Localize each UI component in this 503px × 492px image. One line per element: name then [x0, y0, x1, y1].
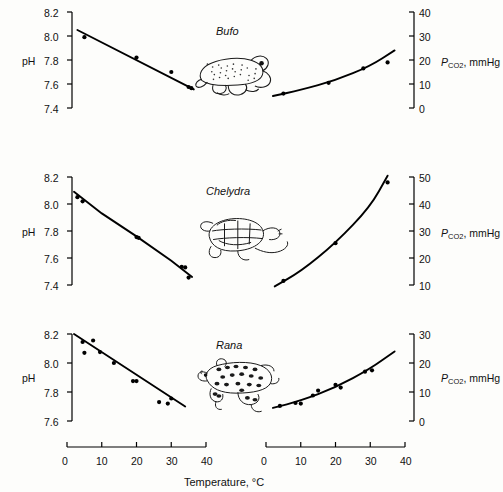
species-label-chelydra: Chelydra [206, 185, 250, 197]
pco2-axis-label-sub: CO [448, 61, 459, 70]
x-tick-label: 20 [131, 455, 143, 467]
species-label-bufo: Bufo [216, 25, 239, 37]
pco2-axis-label-unit: , mmHg [463, 56, 500, 68]
ph-data-point [112, 361, 116, 365]
ph-data-point [91, 338, 95, 342]
ph-tick-label: 8.2 [44, 329, 59, 341]
pco2-data-point [333, 241, 337, 245]
pco2-data-point [363, 370, 367, 374]
pco2-tick-label: 10 [419, 387, 431, 399]
figure-root: 8.2 8.0 7.8 7.6 7.4 pH 40 30 20 10 0 PCO… [0, 0, 503, 492]
ph-tick-label: 7.8 [44, 387, 59, 399]
ph-tick-label: 8.2 [44, 172, 59, 184]
ph-tick-label: 7.6 [44, 79, 59, 91]
pco2-axis-label-sub: CO [448, 232, 459, 241]
pco2-axis-label-p: P [441, 56, 448, 68]
turtle-illustration [201, 219, 288, 260]
pco2-tick-label: 0 [419, 416, 425, 428]
ph-data-point [134, 379, 138, 383]
ph-tick-label: 7.8 [44, 226, 59, 238]
pco2-tick-label: 50 [419, 172, 431, 184]
ph-axis-label: pH [22, 226, 35, 238]
pco2-fit-curve [273, 50, 395, 96]
ph-data-point [98, 350, 102, 354]
pco2-tick-label: 10 [419, 79, 431, 91]
ph-tick-label: 8.2 [44, 7, 59, 19]
ph-tick-label: 7.6 [44, 416, 59, 428]
ph-data-point [189, 86, 193, 90]
pco2-tick-label: 0 [419, 103, 425, 115]
pco2-data-point [281, 279, 285, 283]
pco2-data-point [370, 368, 374, 372]
pco2-tick-label: 10 [419, 280, 431, 292]
pco2-data-point [361, 66, 365, 70]
ph-tick-label: 7.6 [44, 253, 59, 265]
ph-axis-label: pH [22, 55, 35, 67]
ph-data-point [82, 351, 86, 355]
ph-tick-label: 8.0 [44, 31, 59, 43]
pco2-axis-label-unit: , mmHg [463, 372, 500, 384]
ph-tick-label: 8.0 [44, 358, 59, 370]
ph-data-point [81, 199, 85, 203]
x-tick-label: 10 [96, 455, 108, 467]
pco2-tick-label: 40 [419, 7, 431, 19]
ph-data-point [187, 276, 191, 280]
pco2-axis-label-unit: , mmHg [463, 227, 500, 239]
pco2-tick-label: 30 [419, 31, 431, 43]
pco2-data-point [299, 402, 303, 406]
ph-fit-curve [74, 192, 192, 277]
ph-data-point [134, 56, 138, 60]
toad-illustration [196, 56, 271, 95]
ph-data-point [81, 340, 85, 344]
ph-data-point [157, 400, 161, 404]
species-label-rana: Rana [216, 339, 242, 351]
x-tick-label: 40 [400, 455, 412, 467]
ph-data-point [183, 265, 187, 269]
pco2-axis-label: PCO2, mmHg [441, 56, 500, 70]
ph-axis-label: pH [22, 372, 35, 384]
x-tick-label: 0 [62, 455, 68, 467]
pco2-data-point [278, 404, 282, 408]
x-tick-label: 30 [365, 455, 377, 467]
pco2-axis-label: PCO2, mmHg [441, 227, 500, 241]
pco2-data-point [293, 401, 297, 405]
pco2-axis-label-p: P [441, 227, 448, 239]
ph-tick-label: 7.4 [44, 103, 59, 115]
pco2-fit-curve [275, 176, 388, 287]
ph-data-point [82, 35, 86, 39]
ph-tick-label: 7.8 [44, 55, 59, 67]
pco2-data-point [327, 81, 331, 85]
ph-data-point [180, 265, 184, 269]
pco2-tick-label: 30 [419, 329, 431, 341]
pco2-tick-label: 40 [419, 199, 431, 211]
ph-tick-label: 8.0 [44, 199, 59, 211]
pco2-data-point [281, 92, 285, 96]
pco2-data-point [339, 386, 343, 390]
pco2-tick-label: 30 [419, 226, 431, 238]
x-tick-label: 20 [330, 455, 342, 467]
ph-data-point [75, 195, 79, 199]
x-axis-title: Temperature, °C [184, 476, 264, 488]
x-tick-label: 30 [166, 455, 178, 467]
pco2-data-point [316, 389, 320, 393]
pco2-axis-label-sub: CO [448, 377, 459, 386]
pco2-tick-label: 20 [419, 253, 431, 265]
ph-data-point [166, 402, 170, 406]
x-tick-label: 40 [201, 455, 213, 467]
ph-fit-curve [74, 334, 185, 407]
pco2-axis-label-p: P [441, 372, 448, 384]
frog-illustration [198, 359, 279, 412]
pco2-data-point [311, 393, 315, 397]
pco2-tick-label: 20 [419, 55, 431, 67]
pco2-tick-label: 20 [419, 358, 431, 370]
ph-data-point [169, 396, 173, 400]
pco2-axis-label: PCO2, mmHg [441, 372, 500, 386]
pco2-data-point [333, 383, 337, 387]
ph-tick-label: 7.4 [44, 280, 59, 292]
pco2-data-point [386, 180, 390, 184]
plot-canvas [0, 0, 503, 492]
x-tick-label: 10 [295, 455, 307, 467]
pco2-fit-curve [273, 351, 395, 408]
x-tick-label: 0 [261, 455, 267, 467]
pco2-data-point [386, 60, 390, 64]
